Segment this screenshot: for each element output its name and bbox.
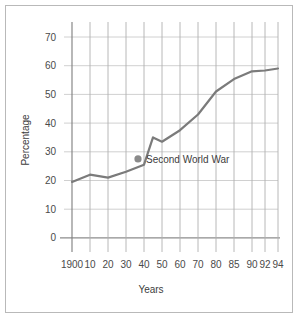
x-tick-label: 60 xyxy=(174,259,186,270)
x-tick-label: 94 xyxy=(272,259,284,270)
y-tick-label: 40 xyxy=(45,118,57,129)
x-tick-label: 40 xyxy=(138,259,150,270)
x-tick-labels: 1900 10 20 30 40 50 60 70 80 85 90 92 94 xyxy=(61,259,284,270)
x-tick-label: 10 xyxy=(84,259,96,270)
x-tick-label: 20 xyxy=(102,259,114,270)
second-world-war-marker-icon xyxy=(134,155,141,162)
x-tick-label: 70 xyxy=(192,259,204,270)
x-tick-label: 92 xyxy=(259,259,271,270)
x-tick-label: 90 xyxy=(246,259,258,270)
second-world-war-annotation-label: Second World War xyxy=(146,154,230,165)
y-tick-label: 20 xyxy=(45,175,57,186)
y-tick-label: 60 xyxy=(45,60,57,71)
y-tick-label: 0 xyxy=(50,232,56,243)
x-axis-title: Years xyxy=(138,284,163,295)
x-tick-label: 30 xyxy=(120,259,132,270)
y-axis-title: Percentage xyxy=(20,114,31,166)
x-tick-label: 1900 xyxy=(61,259,84,270)
vertical-gridlines xyxy=(72,22,278,252)
y-tick-label: 10 xyxy=(45,204,57,215)
x-tick-label: 85 xyxy=(228,259,240,270)
y-tick-label: 50 xyxy=(45,89,57,100)
y-tick-labels: 70 60 50 40 30 20 10 0 xyxy=(45,32,57,244)
x-tick-label: 50 xyxy=(156,259,168,270)
line-chart: 70 60 50 40 30 20 10 0 1900 10 20 30 40 … xyxy=(0,0,298,318)
y-tick-label: 30 xyxy=(45,146,57,157)
horizontal-gridlines xyxy=(64,37,278,209)
chart-figure: 70 60 50 40 30 20 10 0 1900 10 20 30 40 … xyxy=(0,0,298,318)
y-tick-label: 70 xyxy=(45,32,57,43)
x-tick-label: 80 xyxy=(210,259,222,270)
